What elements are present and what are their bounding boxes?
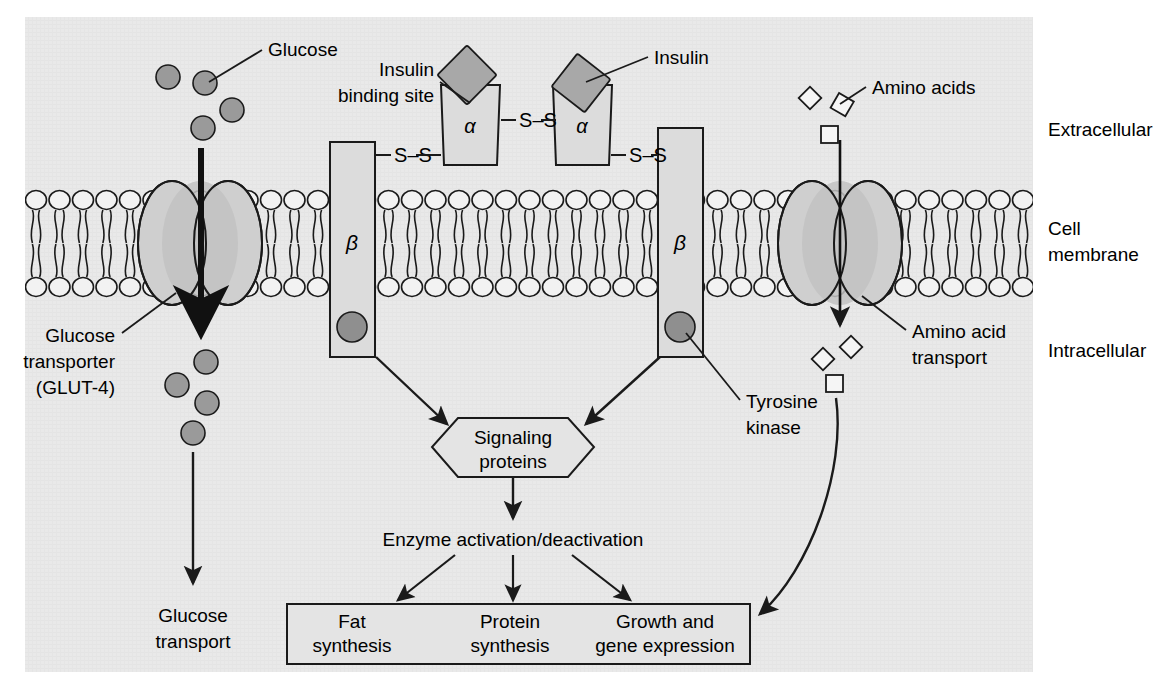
amino-acids-label: Amino acids [872,77,976,98]
lipid-head [590,278,611,297]
glucose-molecule [191,116,215,140]
glucose-label: Glucose [268,39,338,60]
glucose-transporter-line1: Glucose [45,325,115,346]
tyrosine-kinase-line1: Tyrosine [746,391,818,412]
lipid-head [731,278,752,297]
outcomes-box: Fat synthesis Protein synthesis Growth a… [287,604,750,664]
lipid-head [449,278,470,297]
lipid-head [519,191,540,210]
receptor-beta-subunit-left: β [330,142,375,357]
tyrosine-kinase-site-left [337,312,367,342]
lipid-head [496,191,517,210]
outcome-fat-line1: Fat [338,611,366,632]
lipid-head [120,191,141,210]
lipid-head [895,191,916,210]
lipid-head [731,191,752,210]
glucose-molecule [156,65,180,89]
lipid-head [707,191,728,210]
lipid-head [284,278,305,297]
figure-canvas: β β α α S–S S–S S–S [0,0,1174,694]
lipid-head [449,191,470,210]
lipid-head [402,278,423,297]
lipid-head [26,278,47,297]
insulin-binding-site-line1: Insulin [379,59,434,80]
lipid-head [308,278,329,297]
disulfide-label-right: S–S [629,144,667,166]
glucose-molecule [181,421,205,445]
lipid-head [942,191,963,210]
enzyme-activation-label: Enzyme activation/deactivation [383,529,644,550]
glucose-molecule [195,391,219,415]
lipid-head [966,278,987,297]
lipid-head [49,278,70,297]
alpha-label-right: α [576,115,588,137]
cell-membrane-line1: Cell [1048,218,1081,239]
outcome-growth-line2: gene expression [595,635,734,656]
glucose-molecule [194,350,218,374]
lipid-head [120,278,141,297]
beta-label-right: β [673,231,686,254]
lipid-head [989,278,1010,297]
lipid-head [613,278,634,297]
lipid-head [284,191,305,210]
lipid-head [472,278,493,297]
tyrosine-kinase-line2: kinase [746,417,801,438]
insulin-label: Insulin [654,47,709,68]
outcome-protein-line2: synthesis [470,635,549,656]
lipid-head [261,278,282,297]
glucose-transport-line1: Glucose [158,605,228,626]
beta-label-left: β [345,231,358,254]
glucose-molecule [193,71,217,95]
amino-acid-molecule [826,375,843,392]
lipid-head [895,278,916,297]
lipid-head [519,278,540,297]
amino-acid-molecule [821,126,838,143]
lipid-head [754,191,775,210]
lipid-head [543,278,564,297]
lipid-head [942,278,963,297]
amino-acid-transport-line1: Amino acid [912,321,1006,342]
signaling-proteins-node: Signaling proteins [432,418,594,477]
extracellular-label: Extracellular [1048,119,1153,140]
lipid-head [378,191,399,210]
glucose-molecule [165,373,189,397]
signaling-proteins-line2: proteins [479,451,547,472]
lipid-head [1013,191,1034,210]
lipid-head [96,191,117,210]
lipid-head [73,191,94,210]
lipid-head [613,191,634,210]
lipid-head [378,278,399,297]
lipid-head [402,191,423,210]
glucose-transporter-line3: (GLUT-4) [36,377,115,398]
amino-acid-transport-line2: transport [912,347,988,368]
glucose-transporter-line2: transporter [23,351,116,372]
lipid-head [73,278,94,297]
lipid-head [49,191,70,210]
lipid-head [966,191,987,210]
outcome-growth-line1: Growth and [616,611,714,632]
lipid-head [1013,278,1034,297]
lipid-head [496,278,517,297]
lipid-head [26,191,47,210]
lipid-head [919,278,940,297]
lipid-head [637,191,658,210]
lipid-head [989,191,1010,210]
lipid-head [566,278,587,297]
lipid-head [566,191,587,210]
cell-membrane-line2: membrane [1048,244,1139,265]
outcome-fat-line2: synthesis [312,635,391,656]
glucose-molecule [220,98,244,122]
intracellular-label: Intracellular [1048,340,1147,361]
lipid-head [590,191,611,210]
lipid-head [472,191,493,210]
lipid-head [308,191,329,210]
signaling-proteins-line1: Signaling [474,427,552,448]
lipid-head [261,191,282,210]
lipid-head [425,278,446,297]
lipid-head [707,278,728,297]
alpha-label-left: α [464,115,476,137]
outcome-protein-line1: Protein [480,611,540,632]
lipid-head [96,278,117,297]
insulin-binding-site-line2: binding site [338,85,434,106]
lipid-head [543,191,564,210]
